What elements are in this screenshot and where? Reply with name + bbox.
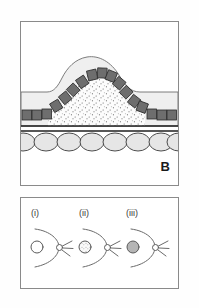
sub-panel-i [31, 229, 73, 267]
figure-root: B [0, 0, 199, 308]
ray-i-1 [63, 241, 73, 246]
sub-panel-label-ii: (ii) [79, 209, 89, 218]
sub-panel-ii [79, 229, 121, 267]
follicle-circle-ii [79, 241, 91, 253]
lower-panel-illustration [21, 198, 178, 288]
node-i [57, 245, 63, 251]
sub-panel-label-iii: (iii) [126, 209, 138, 218]
ray-iii-2 [159, 248, 169, 249]
ray-ii-3 [110, 250, 118, 256]
follicle-circle-iii [127, 241, 139, 253]
ray-i-3 [62, 250, 70, 256]
lower-panel: (i) (ii) (iii) [20, 197, 179, 289]
sub-panel-iii [127, 229, 169, 267]
ray-i-2 [63, 248, 73, 249]
node-iii [153, 245, 159, 251]
upper-panel: B [20, 21, 179, 186]
panel-label-b: B [161, 160, 170, 173]
ray-ii-1 [111, 241, 121, 246]
ray-iii-3 [158, 250, 166, 256]
ray-ii-2 [111, 248, 121, 249]
follicle-circle-i [31, 241, 43, 253]
upper-panel-illustration [21, 22, 178, 185]
ray-iii-1 [159, 241, 169, 246]
sub-panel-label-i: (i) [31, 209, 39, 218]
oval-cell-row [21, 133, 178, 151]
node-ii [105, 245, 111, 251]
